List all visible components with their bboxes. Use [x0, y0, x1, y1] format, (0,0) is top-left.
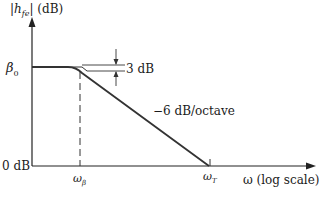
beta0-label: β0 [6, 61, 19, 78]
x-axis-arrow-icon [306, 163, 316, 170]
bode-plot [0, 0, 320, 198]
slope-label: −6 dB/octave [153, 105, 235, 117]
y-axis-label: |hfe| (dB) [10, 3, 63, 18]
asymptote-slope-start [82, 67, 87, 71]
omega-t-label: ωT [203, 171, 217, 185]
arrow-down-icon [114, 59, 119, 65]
zero-db-label: 0 dB [2, 160, 30, 172]
y-axis-arrow-icon [29, 17, 36, 27]
x-axis-label: ω (log scale) [243, 174, 320, 186]
three-db-label: 3 dB [126, 63, 154, 75]
omega-beta-label: ωβ [73, 173, 86, 187]
arrow-up-icon [114, 71, 119, 77]
